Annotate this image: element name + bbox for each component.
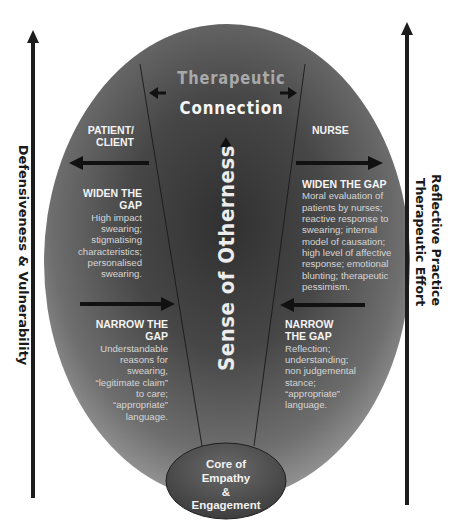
patient-widen-text: stigmatising	[60, 234, 142, 245]
nurse-widen-text: blunting; therapeutic	[302, 270, 402, 281]
patient-widen-heading: WIDEN THE	[60, 187, 142, 199]
patient-narrow-text: language.	[70, 411, 168, 422]
nurse-narrow-text: Reflection;	[285, 343, 375, 354]
nurse-heading: NURSE	[312, 124, 372, 136]
nurse-narrow-text: language.	[285, 399, 375, 410]
nurse-narrow-heading: THE GAP	[285, 330, 375, 342]
patient-narrow-text: swearing,	[70, 365, 168, 376]
right-axis-label-effort: Therapeutic Effort	[413, 178, 428, 306]
nurse-widen-heading: WIDEN THE GAP	[302, 178, 402, 190]
patient-narrow-block: NARROW THE GAP Understandable reasons fo…	[70, 318, 168, 422]
nurse-narrow-text: “appropriate”	[285, 388, 375, 399]
patient-narrow-text: reasons for	[70, 354, 168, 365]
core-line: Core of	[166, 458, 286, 472]
patient-narrow-text: Understandable	[70, 343, 168, 354]
patient-widen-text: swearing;	[60, 223, 142, 234]
title-therapeutic: Therapeutic	[32, 68, 430, 88]
patient-narrow-heading: GAP	[70, 330, 168, 342]
patient-widen-text: High impact	[60, 212, 142, 223]
nurse-narrow-text: non judgemental	[285, 365, 375, 376]
nurse-widen-text: reactive response to	[302, 213, 402, 224]
nurse-narrow-text: stance;	[285, 377, 375, 388]
right-axis-label-reflective: Reflective Practice	[429, 174, 444, 306]
patient-narrow-text: to care;	[70, 388, 168, 399]
nurse-widen-text: patients by nurses;	[302, 202, 402, 213]
nurse-narrow-text: understanding;	[285, 354, 375, 365]
patient-widen-text: characteristics;	[60, 246, 142, 257]
nurse-widen-text: swearing; internal	[302, 224, 402, 235]
patient-heading-line: PATIENT/	[70, 124, 134, 136]
left-axis-label: Defensiveness & Vulnerability	[16, 145, 31, 366]
nurse-widen-text: high level of affective	[302, 247, 402, 258]
core-line: Empathy	[166, 472, 286, 486]
patient-widen-text: personalised	[60, 257, 142, 268]
title-connection: Connection	[32, 98, 430, 118]
sense-of-otherness-label: Sense of Otherness	[214, 145, 239, 371]
nurse-widen-text: Moral evaluation of	[302, 190, 402, 201]
nurse-widen-block: WIDEN THE GAP Moral evaluation of patien…	[302, 178, 402, 292]
patient-widen-text: swearing.	[60, 268, 142, 279]
nurse-widen-text: response; emotional	[302, 258, 402, 269]
patient-heading-line: CLIENT	[70, 136, 134, 148]
core-line: &	[166, 486, 286, 500]
patient-narrow-text: “legitimate claim”	[70, 377, 168, 388]
core-label: Core of Empathy & Engagement	[166, 458, 286, 513]
patient-widen-heading: GAP	[60, 199, 142, 211]
patient-widen-block: WIDEN THE GAP High impact swearing; stig…	[60, 187, 142, 280]
patient-heading: PATIENT/ CLIENT	[70, 124, 134, 149]
patient-narrow-heading: NARROW THE	[70, 318, 168, 330]
patient-narrow-text: “appropriate”	[70, 399, 168, 410]
nurse-narrow-block: NARROW THE GAP Reflection; understanding…	[285, 318, 375, 411]
nurse-widen-text: model of causation;	[302, 236, 402, 247]
core-line: Engagement	[166, 499, 286, 513]
nurse-widen-text: pessimism.	[302, 281, 402, 292]
nurse-narrow-heading: NARROW	[285, 318, 375, 330]
